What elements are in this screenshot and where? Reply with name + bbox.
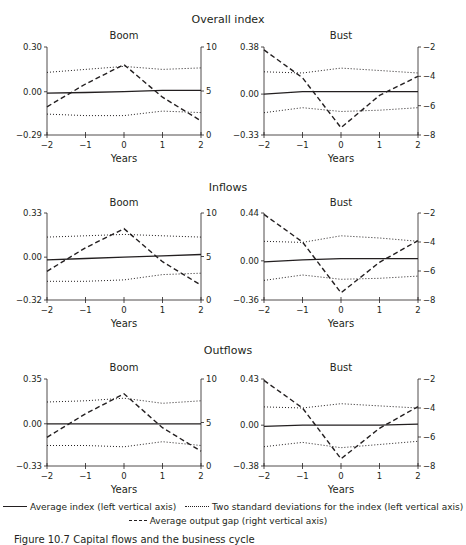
left-tick-label: 0.38 <box>240 42 259 52</box>
std-deviation-line <box>264 275 418 280</box>
average-index-line <box>264 259 418 262</box>
x-tick-label: −2 <box>258 140 271 150</box>
right-tick-label: −6 <box>423 101 436 111</box>
x-axis-label: Years <box>110 153 137 164</box>
x-tick-label: −1 <box>296 140 309 150</box>
right-tick-label: 5 <box>206 252 211 262</box>
right-tick-label: −8 <box>423 130 436 140</box>
panel-title: Boom <box>110 362 139 373</box>
legend-std-deviation: Two standard deviations for the index (l… <box>185 502 463 512</box>
x-tick-label: 0 <box>338 305 343 315</box>
right-tick-label: −6 <box>423 266 436 276</box>
panel-outflows-bust: Bust0.430.00−0.38−2−4−6−8−2−1012Years <box>233 362 436 495</box>
x-tick-label: 0 <box>338 140 343 150</box>
x-tick-label: 2 <box>198 471 203 481</box>
x-axis-label: Years <box>110 484 137 495</box>
average-index-line <box>264 424 418 426</box>
right-tick-label: −2 <box>423 208 436 218</box>
legend-average-index: Average index (left vertical axis) <box>3 502 176 512</box>
panel-inflows-boom: Boom0.330.00−0.321050−2−1012Years <box>16 197 217 329</box>
left-tick-label: 0.00 <box>23 419 42 429</box>
x-tick-label: −1 <box>296 305 309 315</box>
left-tick-label: 0.00 <box>240 89 259 99</box>
group-title: Overall index <box>192 13 265 26</box>
group-title: Outflows <box>204 344 253 357</box>
right-tick-label: −2 <box>423 374 436 384</box>
output-gap-line <box>47 394 201 451</box>
x-tick-label: −2 <box>41 471 54 481</box>
std-deviation-line <box>47 66 201 72</box>
left-tick-label: 0.00 <box>23 252 42 262</box>
group-title: Inflows <box>209 181 248 194</box>
right-tick-label: −4 <box>423 403 436 413</box>
x-tick-label: −2 <box>41 140 54 150</box>
legend-row-2: Average output gap (right vertical axis) <box>0 513 456 526</box>
panel-overall-index-bust: Bust0.380.00−0.33−2−4−6−8−2−1012Years <box>233 30 436 164</box>
left-tick-label: 0.35 <box>23 374 42 384</box>
x-tick-label: 2 <box>415 305 420 315</box>
dashed-line-icon <box>129 520 147 521</box>
panel-title: Boom <box>110 197 139 208</box>
x-tick-label: −1 <box>79 471 92 481</box>
output-gap-line <box>264 214 418 292</box>
std-deviation-line <box>264 236 418 243</box>
legend-output-gap: Average output gap (right vertical axis) <box>129 516 328 526</box>
std-deviation-line <box>47 442 201 447</box>
std-deviation-line <box>264 404 418 408</box>
panel-title: Boom <box>110 30 139 41</box>
right-tick-label: −8 <box>423 461 436 471</box>
x-tick-label: 0 <box>121 140 126 150</box>
std-deviation-line <box>47 398 201 403</box>
right-tick-label: 0 <box>206 295 211 305</box>
dotted-line-icon <box>185 506 209 507</box>
panel-title: Bust <box>330 30 352 41</box>
panel-overall-index-boom: Boom0.300.00−0.291050−2−1012Years <box>16 30 217 164</box>
output-gap-line <box>47 65 201 121</box>
x-axis-label: Years <box>327 318 354 329</box>
left-tick-label: 0.00 <box>240 420 259 430</box>
left-tick-label: −0.36 <box>233 295 259 305</box>
std-deviation-line <box>264 108 418 113</box>
std-deviation-line <box>47 234 201 237</box>
panel-inflows-bust: Bust0.440.00−0.36−2−4−6−8−2−1012Years <box>233 197 436 329</box>
x-tick-label: 1 <box>160 140 165 150</box>
output-gap-line <box>264 380 418 458</box>
left-tick-label: −0.38 <box>233 461 259 471</box>
left-tick-label: −0.32 <box>16 295 42 305</box>
left-tick-label: 0.43 <box>240 374 259 384</box>
x-axis-label: Years <box>110 318 137 329</box>
std-deviation-line <box>47 273 201 281</box>
right-tick-label: 10 <box>206 42 217 52</box>
x-tick-label: 2 <box>198 140 203 150</box>
right-tick-label: −2 <box>423 42 436 52</box>
x-axis-label: Years <box>327 484 354 495</box>
std-deviation-line <box>264 68 418 73</box>
x-tick-label: 2 <box>415 471 420 481</box>
x-tick-label: −1 <box>79 305 92 315</box>
left-tick-label: 0.30 <box>23 42 42 52</box>
left-tick-label: −0.33 <box>16 461 42 471</box>
x-tick-label: −1 <box>296 471 309 481</box>
std-deviation-line <box>47 111 201 116</box>
x-tick-label: 2 <box>415 140 420 150</box>
left-tick-label: 0.33 <box>23 208 42 218</box>
right-tick-label: −6 <box>423 432 436 442</box>
panel-outflows-boom: Boom0.350.00−0.331050−2−1012Years <box>16 362 217 495</box>
right-tick-label: 0 <box>206 130 211 140</box>
right-tick-label: 5 <box>206 86 211 96</box>
std-deviation-line <box>264 441 418 447</box>
average-index-line <box>264 92 418 95</box>
x-axis-label: Years <box>327 153 354 164</box>
x-tick-label: 2 <box>198 305 203 315</box>
solid-line-icon <box>3 506 27 507</box>
right-tick-label: 0 <box>206 461 211 471</box>
x-tick-label: 0 <box>121 305 126 315</box>
x-tick-label: −2 <box>258 305 271 315</box>
right-tick-label: 5 <box>206 418 211 428</box>
x-tick-label: 1 <box>160 471 165 481</box>
x-tick-label: 0 <box>338 471 343 481</box>
x-tick-label: 1 <box>377 471 382 481</box>
figure-caption: Figure 10.7 Capital flows and the busine… <box>14 534 255 545</box>
right-tick-label: −4 <box>423 71 436 81</box>
